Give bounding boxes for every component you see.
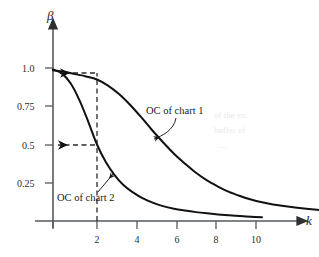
x-tick-label-8: 8 — [214, 234, 219, 245]
y-tick-label-0.25: 0.25 — [17, 178, 35, 189]
annotation-chart-2-leader — [98, 174, 113, 192]
x-tick-label-4: 4 — [135, 234, 140, 245]
y-tick-group: 1.0 0.75 0.5 0.25 — [17, 63, 53, 189]
annotation-chart-1-label: OC of chart 1 — [146, 105, 203, 116]
y-axis-label: β — [46, 8, 54, 23]
annotation-chart-2-label: OC of chart 2 — [57, 192, 114, 203]
y-tick-label-0.75: 0.75 — [17, 101, 35, 112]
x-tick-group: 2 4 6 8 10 — [53, 221, 261, 245]
ghost-line-3: .... — [218, 140, 227, 150]
x-tick-label-6: 6 — [175, 234, 180, 245]
x-tick-label-2: 2 — [95, 234, 100, 245]
ghost-line-1: of the ex — [214, 110, 246, 120]
x-axis-label: k — [306, 213, 312, 228]
oc-curve-chart-1 — [53, 70, 319, 211]
annotation-chart-2: OC of chart 2 — [57, 174, 114, 203]
ghost-line-2: buffer of — [214, 125, 246, 135]
y-tick-label-1.0: 1.0 — [22, 63, 35, 74]
oc-curve-chart: of the ex buffer of .... β k 1.0 0.75 0.… — [0, 0, 319, 257]
ghost-watermark: of the ex buffer of .... — [214, 110, 246, 150]
x-tick-label-10: 10 — [251, 234, 261, 245]
y-tick-label-0.5: 0.5 — [22, 140, 35, 151]
